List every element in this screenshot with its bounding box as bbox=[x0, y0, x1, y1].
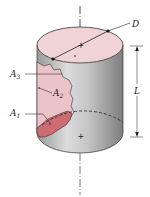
label-length: L bbox=[133, 86, 140, 96]
diameter-end-dot bbox=[51, 57, 54, 60]
a1-point bbox=[49, 123, 51, 125]
label-diameter: D bbox=[131, 19, 139, 29]
a3-point bbox=[74, 55, 76, 57]
length-arrowhead-top bbox=[135, 46, 139, 51]
label-a1: A1 bbox=[9, 108, 20, 119]
label-a3: A3 bbox=[9, 69, 21, 80]
top-center-mark: + bbox=[78, 41, 85, 50]
bottom-center-mark: + bbox=[78, 132, 85, 141]
length-arrowhead-bottom bbox=[135, 132, 139, 137]
diameter-leader bbox=[108, 23, 130, 31]
cylinder-figure: D + + L A3 A2 A1 bbox=[0, 0, 150, 197]
